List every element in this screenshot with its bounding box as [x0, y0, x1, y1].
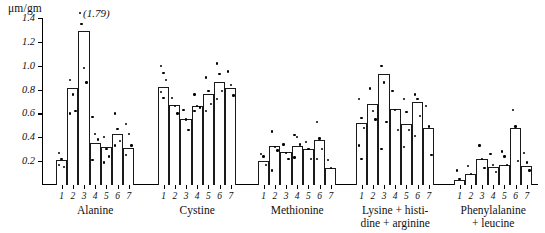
x-axis-tick-label: 5 — [100, 191, 112, 202]
x-axis-tick — [220, 185, 221, 189]
bar — [169, 105, 180, 185]
x-axis-tick — [231, 185, 232, 189]
x-axis-tick — [384, 185, 385, 189]
bar — [423, 128, 434, 185]
scatter-point — [162, 97, 164, 99]
x-axis-tick — [129, 185, 130, 189]
scatter-point — [182, 109, 184, 111]
outlier-dot-marker — [79, 12, 81, 14]
y-axis-tick: 1.2 — [38, 42, 43, 43]
x-axis-tick-label: 7 — [123, 191, 135, 202]
figure-bar-chart: μm/gm (1.79) 0.20.40.60.81.01.21.4 12345… — [0, 0, 545, 233]
x-axis-tick-label: 4 — [291, 191, 303, 202]
scatter-point — [374, 118, 376, 120]
x-axis-tick-label: 3 — [78, 191, 90, 202]
x-axis-tick — [164, 185, 165, 189]
scatter-point — [299, 143, 301, 145]
x-axis-tick-label: 4 — [89, 191, 101, 202]
x-axis-tick-label: 2 — [67, 191, 79, 202]
scatter-point — [523, 152, 525, 154]
x-axis-tick-label: 6 — [412, 191, 424, 202]
y-axis-tick: 1.4 — [38, 18, 43, 19]
scatter-point — [318, 137, 320, 139]
scatter-point — [171, 97, 173, 99]
scatter-point — [58, 152, 60, 154]
scatter-point — [403, 98, 405, 100]
scatter-point — [91, 159, 93, 161]
x-axis-tick-label: 4 — [487, 191, 499, 202]
scatter-point — [495, 171, 497, 173]
scatter-point — [489, 153, 491, 155]
scatter-point — [369, 87, 371, 89]
scatter-point — [165, 79, 167, 81]
scatter-point — [128, 133, 130, 135]
x-axis-tick — [264, 185, 265, 189]
scatter-point — [316, 121, 318, 123]
x-axis-tick-label: 6 — [112, 191, 124, 202]
bar — [465, 174, 476, 185]
bar — [292, 146, 303, 185]
scatter-point — [385, 121, 387, 123]
x-axis-tick-label: 2 — [367, 191, 379, 202]
scatter-point — [80, 23, 82, 25]
x-axis-tick — [493, 185, 494, 189]
x-axis-tick — [286, 185, 287, 189]
scatter-point — [72, 93, 74, 95]
x-axis-tick — [297, 185, 298, 189]
y-axis-tick: 1.0 — [38, 66, 43, 67]
scatter-point — [74, 110, 76, 112]
x-axis-tick — [175, 185, 176, 189]
x-axis-tick — [95, 185, 96, 189]
y-axis-tick-label: 1.4 — [22, 11, 35, 24]
y-axis-tick-label: 1.2 — [22, 35, 35, 48]
bar — [510, 128, 521, 185]
scatter-point — [458, 178, 460, 180]
scatter-point — [501, 150, 503, 152]
scatter-point — [514, 125, 516, 127]
scatter-point — [193, 93, 195, 95]
scatter-point — [506, 164, 508, 166]
bar — [367, 104, 378, 185]
scatter-point — [108, 155, 110, 157]
x-axis-tick — [406, 185, 407, 189]
x-axis-tick — [527, 185, 528, 189]
scatter-point — [276, 149, 278, 151]
x-axis-tick — [331, 185, 332, 189]
scatter-point — [227, 70, 229, 72]
scatter-point — [116, 128, 118, 130]
x-axis-tick-label: 3 — [476, 191, 488, 202]
x-axis-tick — [308, 185, 309, 189]
bar — [101, 147, 112, 185]
x-axis-tick-label: 3 — [180, 191, 192, 202]
x-axis-tick-label: 3 — [378, 191, 390, 202]
scatter-point — [360, 158, 362, 160]
scatter-point — [503, 155, 505, 157]
x-axis-tick — [471, 185, 472, 189]
x-axis-tick-label: 2 — [269, 191, 281, 202]
scatter-point — [425, 105, 427, 107]
bar — [390, 109, 401, 185]
scatter-point — [103, 161, 105, 163]
bar — [499, 165, 510, 185]
x-axis-tick-label: 6 — [214, 191, 226, 202]
y-axis-tick-label: 0.8 — [22, 83, 35, 96]
scatter-point — [205, 76, 207, 78]
scatter-point — [274, 146, 276, 148]
x-axis-tick — [208, 185, 209, 189]
scatter-point — [405, 111, 407, 113]
bar — [325, 168, 336, 185]
scatter-point — [130, 144, 132, 146]
scatter-point — [207, 90, 209, 92]
x-axis-tick — [275, 185, 276, 189]
bar — [67, 88, 78, 185]
bar — [90, 143, 101, 185]
bar — [476, 159, 487, 185]
scatter-point — [103, 136, 105, 138]
x-axis-tick-label: 5 — [400, 191, 412, 202]
x-axis-tick — [516, 185, 517, 189]
x-axis-tick — [418, 185, 419, 189]
scatter-point — [380, 65, 382, 67]
x-axis-tick — [186, 185, 187, 189]
bar — [158, 87, 169, 185]
x-axis-tick-label: 7 — [325, 191, 337, 202]
